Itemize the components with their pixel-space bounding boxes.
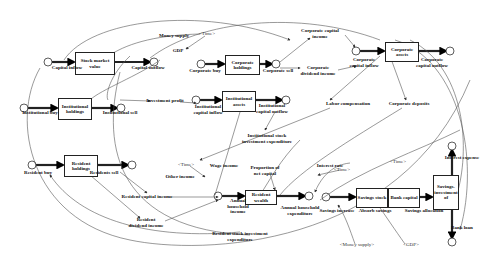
savings-stock-box: Savings stock bbox=[356, 188, 388, 208]
corporate-holdings-box: Corporate holdings bbox=[225, 55, 260, 75]
flow-capital-inflow: Capital inflow bbox=[52, 65, 82, 71]
flow-annual-household-expenditure: Annual household expenditure bbox=[280, 205, 320, 216]
var-corporate-capital-income: Corporate capital income bbox=[301, 28, 339, 39]
flow-capital-outflow: Capital outflow bbox=[131, 65, 164, 71]
var-wage-income: Wage income bbox=[210, 163, 238, 169]
flow-institutional-capital-outflow: Institutional capital outflow bbox=[252, 103, 292, 114]
var-proportion-of-net-capital: Proportion of net capital bbox=[247, 165, 283, 176]
link-arrows bbox=[0, 0, 485, 262]
flow-residents-sell: Residents sell bbox=[90, 170, 119, 176]
flow-institutional-capital-inflow: Institutional capital inflow bbox=[191, 104, 225, 115]
var-institutional-stock-investment-expenditure: Institutional stock investment expenditu… bbox=[237, 133, 297, 144]
var-other-income: Other income bbox=[165, 174, 194, 180]
savings-investment-box: Savings-investment of bbox=[433, 175, 459, 210]
flow-interest-expense: Interest expense bbox=[445, 155, 480, 161]
institutional-assets-box: Institutional assets bbox=[222, 91, 256, 112]
var-gdp: GDP bbox=[173, 48, 184, 54]
flow-annual-household-income: Annual household income bbox=[219, 198, 257, 215]
var-money-supply: Money supply bbox=[159, 33, 189, 39]
shadow-time-4: <Time> bbox=[390, 159, 406, 164]
shadow-time-3: <Time> bbox=[334, 167, 350, 172]
var-resident-dividend-income: Resident dividend income bbox=[128, 217, 164, 228]
var-resident-capital-income: Resident capital income bbox=[122, 194, 173, 200]
var-investment-profit: Investment profit bbox=[146, 98, 183, 104]
shadow-gdp: <GDP> bbox=[403, 242, 419, 247]
flow-institutional-sell: Institutional sell bbox=[103, 110, 138, 116]
flow-resident-buy: Resident buy bbox=[24, 170, 52, 176]
stock-flow-diagram: Stock market value Corporate holdings Co… bbox=[0, 0, 485, 262]
flow-savings-allocation: Savings allocation bbox=[405, 208, 443, 214]
shadow-money-supply: <Money supply> bbox=[340, 242, 374, 247]
flow-absorb-savings: Absorb savings bbox=[359, 208, 392, 214]
var-resident-stock-investment-expenditure: Resident stock investment expenditure bbox=[210, 231, 270, 242]
flow-bank-loan: Bank loan bbox=[451, 225, 473, 231]
shadow-time-1: <Time> bbox=[199, 31, 215, 36]
stock-market-value-box: Stock market value bbox=[75, 52, 115, 75]
flow-corporate-capital-outflow: Corporate capital outflow bbox=[415, 57, 449, 68]
flow-savings-increase: Savings increase bbox=[319, 208, 354, 214]
flow-corporate-capital-inflow: Corporate capital inflow bbox=[347, 57, 381, 68]
var-labor-compensation: Labor compensation bbox=[326, 101, 370, 107]
institutional-holdings-box: Institutional holdings bbox=[58, 98, 92, 120]
flow-corporate-buy: Corporate buy bbox=[189, 68, 221, 74]
corporate-assets-box: Corporate assets bbox=[385, 42, 419, 62]
flow-institutional-buy: Institutional buy bbox=[22, 110, 58, 116]
var-corporate-deposits: Corporate deposits bbox=[389, 101, 430, 107]
flow-corporate-sell: Corporate sell bbox=[263, 68, 293, 74]
bank-capital-box: Bank capital bbox=[388, 188, 420, 208]
shadow-time-2: <Time> bbox=[178, 162, 194, 167]
var-corporate-dividend-income: Corporate dividend income bbox=[298, 65, 338, 76]
